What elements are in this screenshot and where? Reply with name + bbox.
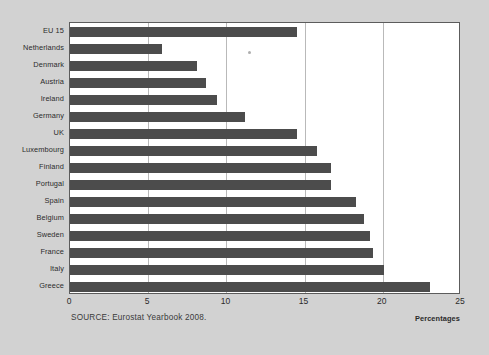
- bar-row: [70, 129, 459, 139]
- x-tick-label-10: 10: [221, 296, 230, 306]
- bar-series: [70, 23, 459, 293]
- bar-row: [70, 197, 459, 207]
- category-label-portugal: Portugal: [0, 179, 64, 188]
- category-label-germany: Germany: [0, 111, 64, 120]
- bar-chart-figure: EU 15NetherlandsDenmarkAustriaIrelandGer…: [0, 0, 489, 355]
- bar: [70, 44, 162, 54]
- source-note: SOURCE: Eurostat Yearbook 2008.: [71, 313, 206, 322]
- category-label-sweden: Sweden: [0, 230, 64, 239]
- category-label-finland: Finland: [0, 162, 64, 171]
- bar-row: [70, 214, 459, 224]
- bar: [70, 248, 373, 258]
- bar-row: [70, 248, 459, 258]
- bar-row: [70, 231, 459, 241]
- bar-row: [70, 61, 459, 71]
- category-label-eu-15: EU 15: [0, 26, 64, 35]
- bar: [70, 27, 297, 37]
- bar-row: [70, 282, 459, 292]
- bar: [70, 180, 331, 190]
- x-tick-label-0: 0: [67, 296, 72, 306]
- bar-row: [70, 95, 459, 105]
- bar-row: [70, 78, 459, 88]
- category-label-france: France: [0, 247, 64, 256]
- bar: [70, 146, 317, 156]
- bar-row: [70, 27, 459, 37]
- category-axis-labels: EU 15NetherlandsDenmarkAustriaIrelandGer…: [0, 22, 64, 294]
- bar: [70, 265, 384, 275]
- category-label-belgium: Belgium: [0, 213, 64, 222]
- bar: [70, 61, 197, 71]
- category-label-spain: Spain: [0, 196, 64, 205]
- bar-row: [70, 44, 459, 54]
- bar: [70, 112, 245, 122]
- category-label-italy: Italy: [0, 264, 64, 273]
- category-label-ireland: Ireland: [0, 94, 64, 103]
- category-label-greece: Greece: [0, 281, 64, 290]
- plot-area: [69, 22, 460, 294]
- x-tick-label-15: 15: [299, 296, 308, 306]
- bar-row: [70, 146, 459, 156]
- bar: [70, 197, 356, 207]
- bar-row: [70, 163, 459, 173]
- x-tick-label-20: 20: [377, 296, 386, 306]
- category-label-austria: Austria: [0, 77, 64, 86]
- x-axis-tick-labels: 0510152025: [69, 296, 460, 312]
- x-tick-label-5: 5: [145, 296, 150, 306]
- bar: [70, 231, 370, 241]
- bar: [70, 78, 206, 88]
- bar: [70, 129, 297, 139]
- axis-unit-label: Percentages: [415, 314, 460, 323]
- scan-artifact-speck: [248, 51, 251, 54]
- category-label-uk: UK: [0, 128, 64, 137]
- bar: [70, 214, 364, 224]
- bar: [70, 163, 331, 173]
- category-label-luxembourg: Luxembourg: [0, 145, 64, 154]
- bar-row: [70, 112, 459, 122]
- bar-row: [70, 180, 459, 190]
- bar-row: [70, 265, 459, 275]
- category-label-netherlands: Netherlands: [0, 43, 64, 52]
- bar: [70, 95, 217, 105]
- bar: [70, 282, 430, 292]
- category-label-denmark: Denmark: [0, 60, 64, 69]
- x-tick-label-25: 25: [455, 296, 464, 306]
